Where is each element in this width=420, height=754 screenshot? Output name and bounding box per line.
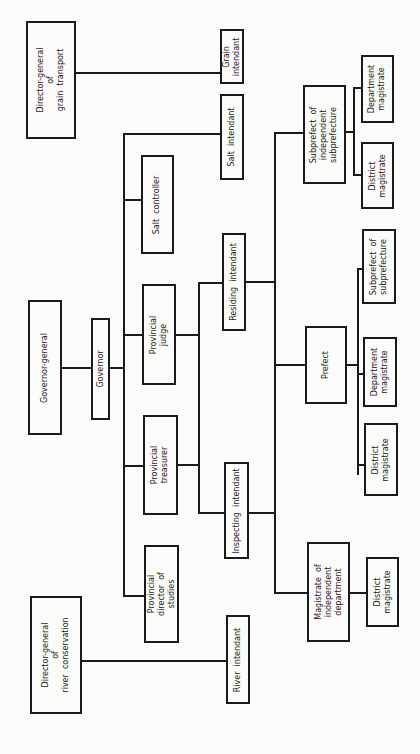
node-district-magistrate: District magistrate [364,423,398,496]
node-label: Governor-general [40,333,50,403]
connector [123,133,125,596]
node-dg-river: Director-general of river conservation [30,596,82,714]
node-label: Director-general of grain transport [36,48,66,113]
connector [123,133,222,135]
node-label: Inspecting intendant [232,468,242,553]
node-label: Provincial treasurer [151,446,171,484]
connector [248,512,276,514]
node-subprefect-of-subprefecture: Subprefect of subprefecture [362,229,396,304]
connector [245,281,275,283]
node-district-magistrate: District magistrate [361,142,394,209]
node-label: Subprefect of independent subprefecture [310,106,340,162]
node-label: River intendant [233,627,243,691]
node-district-magistrate: District magistrate [366,557,399,627]
node-label: District magistrate [371,438,391,482]
node-provincial-director-of-studies: Provincial director of studies [144,545,179,643]
connector [353,87,355,176]
node-label: Grain intendant [222,37,242,76]
node-salt-controller: Salt controller [141,155,174,254]
node-grain-intendant: Grain intendant [220,29,244,84]
connector [274,132,276,593]
node-label: District magistrate [373,570,393,614]
node-department-magistrate: Department magistrate [363,337,397,407]
node-provincial-judge: Provincial judge [142,284,176,385]
node-department-magistrate: Department magistrate [361,55,394,123]
node-river-intendant: River intendant [226,615,250,704]
connector [274,592,308,594]
node-label: Provincial judge [149,315,169,353]
node-residing-intendant: Residing intendant [222,233,246,331]
node-governor: Governor [91,318,110,420]
node-label: Department magistrate [370,348,390,396]
connector [198,282,223,284]
node-label: Governor [96,350,106,387]
node-provincial-treasurer: Provincial treasurer [143,415,178,515]
node-label: Department magistrate [368,65,388,113]
connector [349,592,366,594]
node-prefect: Prefect [305,326,347,404]
connector [123,465,144,467]
connector [175,334,199,336]
connector [61,367,93,369]
node-label: Director-general of river conservation [41,617,71,692]
connector [75,660,227,662]
node-label: Magistrate of independent department [314,564,344,619]
node-salt-intendant: Salt intendant [220,94,244,180]
node-governor-general: Governor-general [28,300,62,435]
connector [357,268,359,475]
connector [123,199,142,201]
node-magistrate-independent: Magistrate of independent department [307,542,350,642]
node-subprefect-independent: Subprefect of independent subprefecture [303,85,346,184]
node-label: Salt intendant [227,107,237,166]
node-dg-grain: Director-general of grain transport [26,21,76,139]
node-label: Salt controller [153,175,163,234]
connector [177,464,199,466]
connector [123,595,145,597]
connector [198,512,225,514]
node-label: Provincial director of studies [147,572,177,616]
connector [123,334,143,336]
node-label: Subprefect of subprefecture [369,238,389,294]
node-label: Prefect [321,351,331,379]
connector [274,132,304,134]
node-label: Residing intendant [229,243,239,321]
connector [198,282,200,514]
connector [274,364,306,366]
connector [75,72,222,74]
node-label: District magistrate [368,154,388,198]
node-inspecting-intendant: Inspecting intendant [224,462,249,559]
